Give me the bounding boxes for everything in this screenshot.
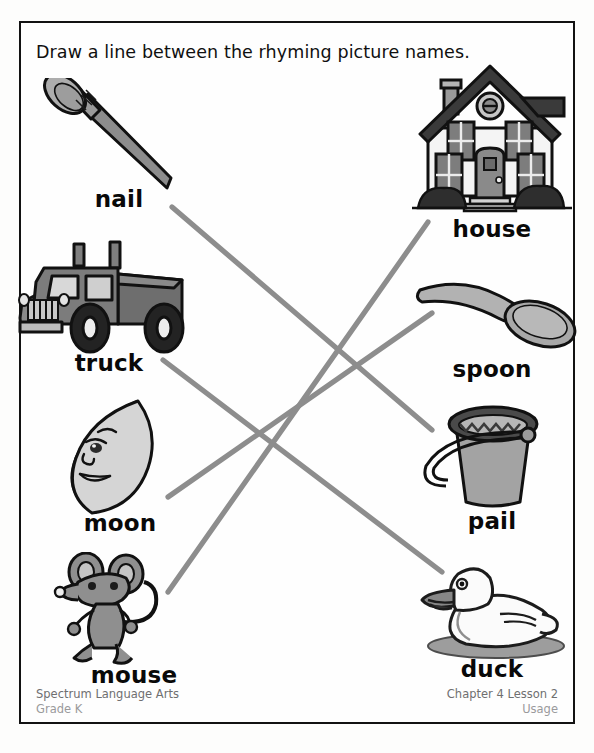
footer-skill: Usage <box>447 702 558 717</box>
picture-label-house: house <box>404 216 580 242</box>
footer-series-title: Spectrum Language Arts <box>36 687 179 702</box>
worksheet-page: Draw a line between the rhyming picture … <box>0 0 594 753</box>
picture-label-mouse: mouse <box>44 662 224 688</box>
picture-label-moon: moon <box>40 510 200 536</box>
pail-icon <box>404 400 580 516</box>
picture-label-spoon: spoon <box>404 356 580 382</box>
footer-grade: Grade K <box>36 702 179 717</box>
picture-item-pail[interactable]: pail <box>404 400 580 552</box>
house-icon <box>404 56 580 224</box>
spoon-icon <box>404 272 580 360</box>
picture-item-duck[interactable]: duck <box>404 552 580 704</box>
picture-item-house[interactable]: house <box>404 56 580 256</box>
nail-icon <box>34 78 204 196</box>
moon-icon <box>40 398 200 518</box>
picture-label-duck: duck <box>404 656 580 682</box>
footer-right: Chapter 4 Lesson 2 Usage <box>447 687 558 717</box>
picture-label-nail: nail <box>34 186 204 212</box>
mouse-icon <box>44 552 224 670</box>
footer-chapter-lesson: Chapter 4 Lesson 2 <box>447 687 558 702</box>
picture-item-truck[interactable]: truck <box>14 238 204 396</box>
page-footer: Spectrum Language Arts Grade K Chapter 4… <box>36 687 558 721</box>
picture-item-nail[interactable]: nail <box>34 78 204 228</box>
picture-item-mouse[interactable]: mouse <box>44 552 224 704</box>
picture-label-pail: pail <box>404 508 580 534</box>
connector-mouse-house[interactable] <box>168 222 428 592</box>
duck-icon <box>404 552 580 664</box>
picture-label-truck: truck <box>14 350 204 376</box>
picture-item-spoon[interactable]: spoon <box>404 272 580 396</box>
truck-icon <box>14 238 204 360</box>
picture-item-moon[interactable]: moon <box>40 398 200 556</box>
footer-left: Spectrum Language Arts Grade K <box>36 687 179 717</box>
